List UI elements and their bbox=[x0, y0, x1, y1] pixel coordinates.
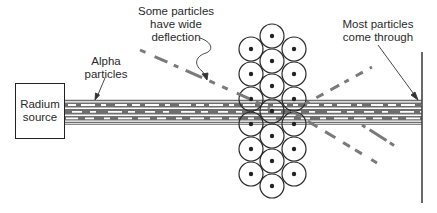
wide-deflection-pointer bbox=[197, 38, 211, 80]
source-label-line1: Radium bbox=[20, 98, 60, 111]
alpha-label-line1: Alpha bbox=[78, 55, 134, 68]
nucleus-dot bbox=[270, 84, 274, 88]
nucleus-dot bbox=[249, 47, 253, 51]
nucleus-dot bbox=[292, 97, 296, 101]
alpha-beam bbox=[65, 100, 422, 125]
wide-label-line3: deflection bbox=[136, 31, 216, 44]
most-particles-label: Most particles come through bbox=[336, 18, 420, 44]
alpha-pointer bbox=[95, 78, 105, 100]
wide-label-line2: have wide bbox=[136, 18, 216, 31]
nucleus-dot bbox=[292, 172, 296, 176]
nucleus-dot bbox=[292, 47, 296, 51]
most-through-pointer bbox=[378, 45, 418, 100]
nucleus-dot bbox=[270, 184, 274, 188]
most-label-line1: Most particles bbox=[336, 18, 420, 31]
wide-label-line1: Some particles bbox=[136, 5, 216, 18]
downward-deflection-path-2 bbox=[362, 125, 395, 146]
nucleus-dot bbox=[270, 59, 274, 63]
nucleus-dot bbox=[249, 172, 253, 176]
source-label-line2: source bbox=[23, 111, 58, 124]
alpha-label-line2: particles bbox=[78, 68, 134, 81]
nucleus-dot bbox=[270, 34, 274, 38]
nucleus-dot bbox=[249, 147, 253, 151]
alpha-particles-label: Alpha particles bbox=[78, 55, 134, 81]
radium-source-box: Radium source bbox=[15, 83, 65, 139]
nucleus-dot bbox=[249, 122, 253, 126]
nucleus-dot bbox=[270, 134, 274, 138]
upward-deflection-path bbox=[305, 67, 372, 104]
gold-atoms bbox=[239, 24, 306, 198]
wide-deflection-label: Some particles have wide deflection bbox=[136, 5, 216, 44]
nucleus-dot bbox=[249, 72, 253, 76]
nucleus-dot bbox=[292, 147, 296, 151]
nucleus-dot bbox=[270, 109, 274, 113]
nucleus-dot bbox=[292, 122, 296, 126]
nucleus-dot bbox=[292, 72, 296, 76]
most-label-line2: come through bbox=[336, 31, 420, 44]
nucleus-dot bbox=[270, 159, 274, 163]
